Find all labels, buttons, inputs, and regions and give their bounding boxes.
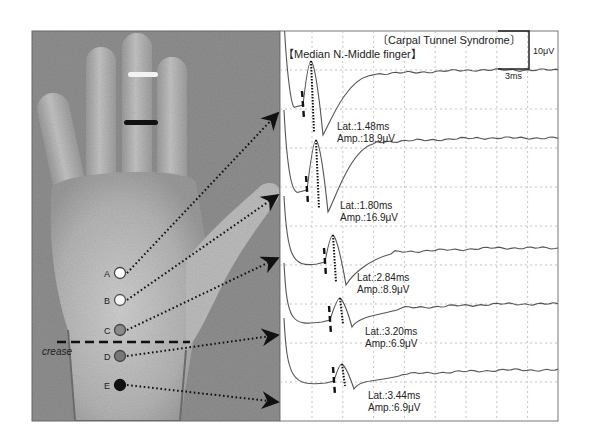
point-label-c: C (104, 326, 111, 336)
amplitude-label-d: Amp.:6.9μV (365, 338, 418, 349)
scale-amplitude-label: 10μV (533, 46, 554, 56)
stimulation-point-e (115, 380, 126, 391)
hand-photo-panel: crease ABCDE (32, 31, 280, 421)
latency-label-e: Lat.:3.44ms (368, 390, 420, 401)
point-label-a: A (104, 269, 110, 279)
point-label-e: E (104, 381, 110, 391)
waveform-chart-panel: Lat.:1.48msAmp.:18.9μVLat.:1.80msAmp.:16… (280, 20, 561, 421)
latency-label-a: Lat.:1.48ms (337, 121, 389, 132)
crease-label: crease (42, 346, 72, 357)
chart-title: 〔Carpal Tunnel Syndrome〕 (377, 34, 521, 46)
white-ring-marker (128, 72, 158, 77)
amplitude-label-b: Amp.:16.9μV (340, 212, 398, 223)
stimulation-point-b (115, 295, 126, 306)
point-label-b: B (104, 296, 110, 306)
point-label-d: D (104, 352, 111, 362)
black-ring-marker (124, 120, 158, 125)
amplitude-label-e: Amp.:6.9μV (368, 402, 421, 413)
latency-label-b: Lat.:1.80ms (340, 200, 392, 211)
stimulation-point-c (115, 325, 126, 336)
stimulation-point-a (115, 268, 126, 279)
chart-subtitle: 【Median N.-Middle finger】 (283, 48, 422, 60)
amplitude-label-a: Amp.:18.9μV (337, 133, 395, 144)
latency-label-d: Lat.:3.20ms (365, 326, 417, 337)
ncs-figure: crease ABCDE Lat.:1.48msAmp.:18.9μVLat.:… (0, 0, 589, 448)
scale-time-label: 3ms (505, 71, 523, 81)
latency-label-c: Lat.:2.84ms (357, 272, 409, 283)
amplitude-label-c: Amp.:8.9μV (357, 284, 410, 295)
stimulation-point-d (115, 351, 126, 362)
